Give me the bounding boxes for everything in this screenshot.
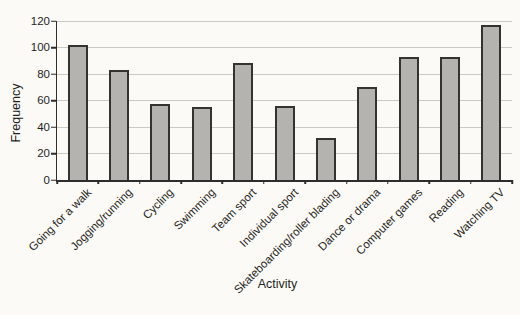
y-tick — [51, 153, 56, 155]
x-tick — [263, 180, 265, 184]
y-tick — [51, 100, 56, 102]
y-tick — [51, 47, 56, 49]
y-tick-label: 0 — [44, 174, 50, 186]
bar — [357, 87, 377, 180]
y-tick-label: 20 — [37, 148, 50, 160]
bar — [109, 70, 129, 180]
y-tick-label: 120 — [31, 15, 50, 27]
y-tick-label: 60 — [37, 95, 50, 107]
bar — [275, 106, 295, 180]
bar — [150, 104, 170, 180]
y-axis-line — [56, 21, 58, 182]
bar — [481, 25, 501, 180]
x-tick — [346, 180, 348, 184]
y-tick — [51, 20, 56, 22]
bar — [233, 63, 253, 180]
x-tick — [304, 180, 306, 184]
x-tick — [180, 180, 182, 184]
x-tick-label: Reading — [427, 186, 466, 225]
x-axis-title: Activity — [50, 277, 505, 291]
x-tick — [511, 180, 513, 184]
gridline — [57, 47, 512, 48]
bar — [440, 57, 460, 180]
gridline — [57, 21, 512, 22]
bar — [316, 138, 336, 180]
y-tick-label: 40 — [37, 121, 50, 133]
x-tick — [429, 180, 431, 184]
x-tick — [387, 180, 389, 184]
bar — [68, 45, 88, 180]
y-tick-label: 80 — [37, 68, 50, 80]
y-tick — [51, 73, 56, 75]
y-axis-tick-labels: 020406080100120 — [0, 21, 50, 180]
bar — [192, 107, 212, 180]
x-tick-label: Cycling — [141, 186, 177, 222]
y-tick — [51, 179, 56, 181]
x-tick — [470, 180, 472, 184]
y-tick-label: 100 — [31, 42, 50, 54]
x-tick — [56, 180, 58, 184]
bar-chart-figure: Frequency 020406080100120 Going for a wa… — [0, 0, 520, 315]
y-tick — [51, 126, 56, 128]
x-axis-line — [56, 180, 513, 182]
x-tick — [222, 180, 224, 184]
bar — [399, 57, 419, 180]
plot-area — [57, 21, 512, 180]
x-tick — [98, 180, 100, 184]
x-tick — [139, 180, 141, 184]
